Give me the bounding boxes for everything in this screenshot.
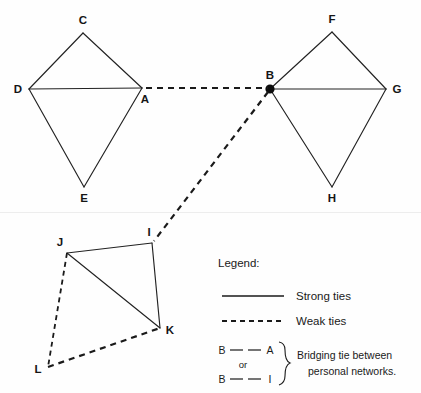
edge-D-A	[29, 88, 142, 89]
bridging-ties	[146, 88, 268, 241]
edge-H-G	[332, 89, 386, 187]
node-label-A: A	[141, 93, 149, 105]
legend-label-strong-ties: Strong ties	[296, 290, 351, 302]
edge-J-I	[67, 243, 152, 253]
legend-bridge-node-B-top: B	[218, 344, 225, 356]
legend-heading: Legend:	[218, 257, 260, 269]
edge-D-C	[29, 33, 83, 89]
node-label-J: J	[57, 236, 63, 248]
right-personal-network: F B G H	[265, 13, 401, 204]
node-label-F: F	[328, 13, 335, 25]
edge-I-K	[152, 243, 160, 328]
edge-J-L	[48, 253, 67, 367]
legend-label-weak-ties: Weak ties	[296, 315, 347, 327]
lower-personal-network: J I K L	[34, 226, 174, 375]
edge-B-H	[270, 89, 332, 187]
node-label-I: I	[147, 226, 150, 238]
edge-D-E	[29, 89, 84, 187]
edge-C-A	[83, 33, 142, 88]
legend: Legend: Strong ties Weak ties B A or B I…	[218, 257, 396, 385]
edge-J-K	[67, 253, 160, 328]
edge-L-K	[48, 328, 160, 367]
network-diagram-svg: C D A E F B G H J I K	[0, 0, 421, 393]
node-label-L: L	[34, 363, 41, 375]
edge-B-I-bridge	[154, 92, 268, 241]
diagram-canvas: C D A E F B G H J I K	[0, 0, 421, 393]
node-label-K: K	[166, 324, 175, 336]
node-label-H: H	[328, 192, 336, 204]
legend-bridge-node-B-bottom: B	[218, 373, 225, 385]
legend-curly-brace-icon	[279, 342, 290, 385]
legend-bridge-description-line-1: Bridging tie between	[297, 349, 392, 361]
edge-E-A	[84, 88, 142, 187]
edge-F-G	[332, 32, 386, 89]
node-label-D: D	[14, 83, 22, 95]
legend-bridge-or: or	[239, 359, 247, 370]
node-label-E: E	[80, 192, 88, 204]
edge-B-F	[270, 32, 332, 89]
node-label-C: C	[79, 14, 87, 26]
node-label-G: G	[393, 83, 402, 95]
left-personal-network: C D A E	[14, 14, 149, 204]
legend-bridge-description-line-2: personal networks.	[308, 365, 396, 377]
legend-bridge-node-I: I	[269, 373, 272, 385]
legend-bridge-node-A: A	[266, 344, 273, 356]
node-label-B: B	[266, 69, 274, 81]
